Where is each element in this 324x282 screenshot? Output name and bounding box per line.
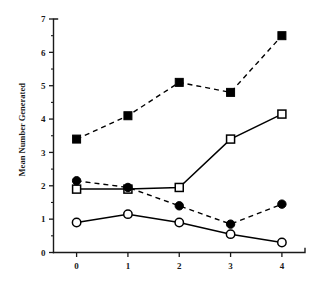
y-tick-label: 5 [41,81,46,91]
y-tick-label: 2 [41,181,46,191]
series-line [77,36,282,139]
data-point-marker [124,183,132,191]
data-point-marker [175,78,183,86]
data-point-marker [73,185,81,193]
chart-container: 0123456701234Mean Number Generated [0,0,324,282]
y-tick-label: 7 [41,14,46,24]
y-tick-label: 3 [41,148,46,158]
series-line [77,114,282,189]
y-tick-label: 0 [41,248,46,258]
data-point-marker [278,200,286,208]
data-point-marker [124,210,132,218]
data-point-marker [175,218,183,226]
x-tick-label: 3 [228,261,233,271]
x-tick-label: 0 [74,261,79,271]
y-axis-spine [54,19,58,253]
data-point-marker [278,238,286,246]
data-point-marker [124,112,132,120]
data-point-marker [278,110,286,118]
data-series-layer [72,32,286,247]
data-point-marker [226,220,234,228]
x-axis-spine [54,249,306,253]
markers-open-circle-solid [72,210,286,247]
data-point-marker [227,135,235,143]
data-point-marker [175,183,183,191]
y-tick-label: 1 [41,214,46,224]
data-point-marker [227,88,235,96]
data-point-marker [278,32,286,40]
data-point-marker [175,202,183,210]
y-axis-title: Mean Number Generated [17,83,27,177]
data-point-marker [73,135,81,143]
series-filled-square-dashed [77,36,282,139]
data-point-marker [72,177,80,185]
data-point-marker [72,218,80,226]
line-chart: 0123456701234Mean Number Generated [0,0,324,282]
data-point-marker [226,230,234,238]
axis-labels-layer: 0123456701234Mean Number Generated [17,14,285,270]
series-open-square-solid [77,114,282,189]
x-tick-label: 4 [280,261,285,271]
y-tick-label: 6 [41,48,46,58]
x-tick-label: 2 [177,261,182,271]
y-tick-label: 4 [41,114,46,124]
markers-open-square-solid [73,110,286,193]
x-tick-label: 1 [126,261,131,271]
